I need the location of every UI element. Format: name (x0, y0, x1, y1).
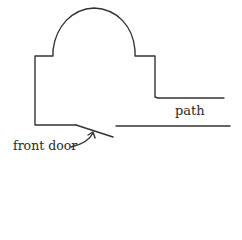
path-label: path (175, 104, 205, 117)
front-door-label: front door (13, 140, 77, 153)
